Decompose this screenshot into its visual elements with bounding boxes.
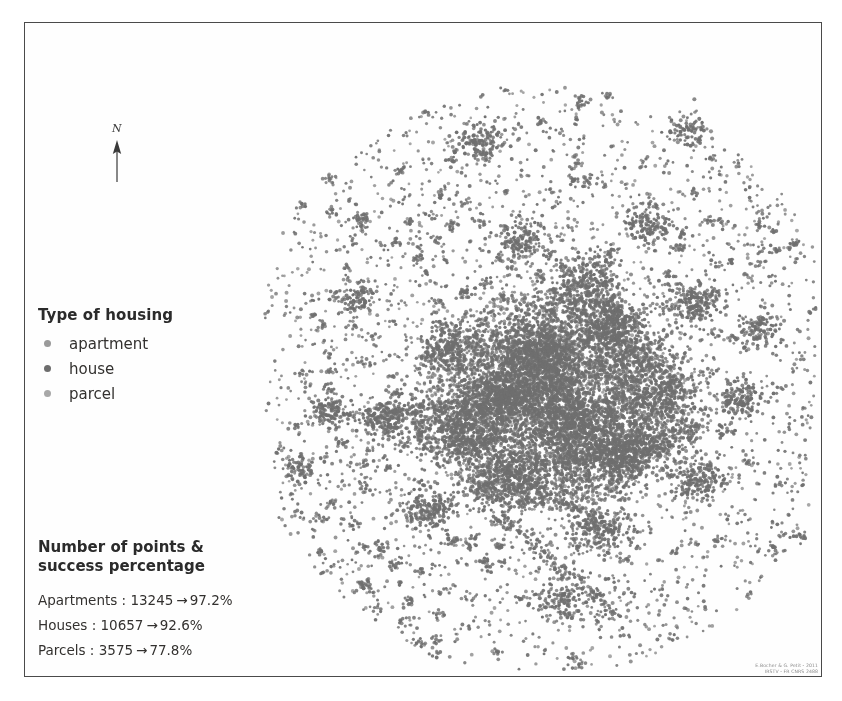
statistics-title-line2: success percentage: [38, 557, 278, 576]
statistics-count-apartments: 13245: [130, 592, 173, 608]
north-arrow-icon: [110, 139, 124, 183]
statistics-row-apartments: Apartments : 13245→97.2%: [38, 588, 278, 613]
statistics-row-houses: Houses : 10657→92.6%: [38, 613, 278, 638]
arrow-icon-apartments: →: [173, 592, 189, 608]
legend-item-parcel: parcel: [38, 381, 248, 406]
statistics-percent-parcels: 77.8%: [149, 642, 192, 658]
legend-label-apartment: apartment: [69, 335, 148, 353]
statistics-count-parcels: 3575: [99, 642, 133, 658]
legend-title: Type of housing: [38, 306, 248, 324]
legend-type-of-housing: Type of housing apartment house parcel: [38, 306, 248, 406]
statistics-block: Number of points & success percentage Ap…: [38, 538, 278, 663]
statistics-label-parcels: Parcels :: [38, 642, 94, 658]
legend-dot-parcel: [44, 390, 51, 397]
legend-label-parcel: parcel: [69, 385, 115, 403]
arrow-icon-houses: →: [143, 617, 159, 633]
statistics-title: Number of points & success percentage: [38, 538, 278, 576]
arrow-icon-parcels: →: [133, 642, 149, 658]
legend-label-house: house: [69, 360, 114, 378]
statistics-count-houses: 10657: [100, 617, 143, 633]
legend-item-apartment: apartment: [38, 331, 248, 356]
map-figure: N Type of housing apartment house parcel…: [0, 0, 842, 701]
statistics-title-line1: Number of points &: [38, 538, 278, 557]
credit-line-2: IRSTV - FR CNRS 2488: [755, 669, 818, 675]
statistics-label-apartments: Apartments :: [38, 592, 126, 608]
north-arrow-label: N: [112, 122, 122, 135]
statistics-label-houses: Houses :: [38, 617, 96, 633]
credit-note: E.Bocher & G. Petit - 2011 IRSTV - FR CN…: [755, 663, 818, 675]
north-arrow: N: [108, 122, 142, 184]
statistics-percent-apartments: 97.2%: [190, 592, 233, 608]
legend-dot-apartment: [44, 340, 51, 347]
statistics-row-parcels: Parcels : 3575→77.8%: [38, 638, 278, 663]
legend-item-house: house: [38, 356, 248, 381]
legend-dot-house: [44, 365, 51, 372]
statistics-percent-houses: 92.6%: [160, 617, 203, 633]
